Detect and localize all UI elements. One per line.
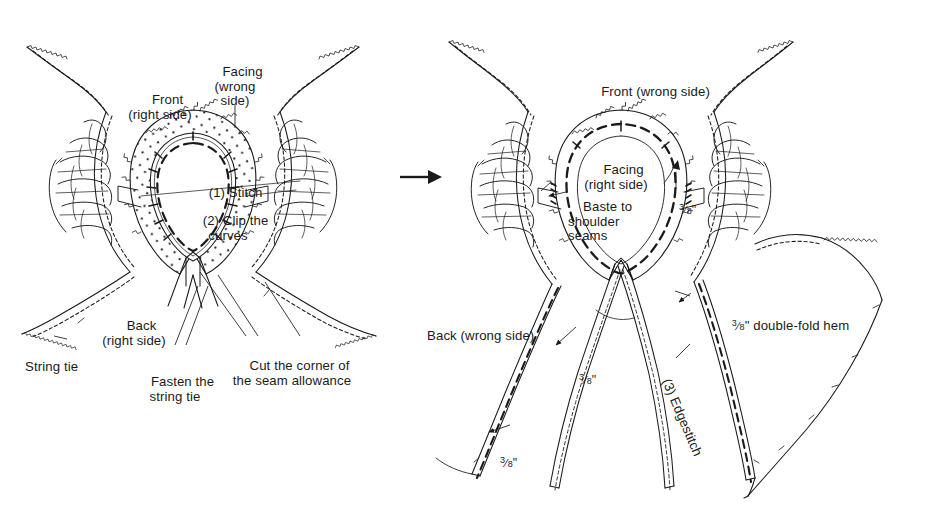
leader-double-fold-hem-2 xyxy=(675,291,690,296)
left-panel-artwork xyxy=(22,46,376,350)
right-panel-artwork xyxy=(436,41,882,499)
leader-edgestitch xyxy=(676,344,690,358)
leader-cut-corner-left xyxy=(200,272,246,336)
leader-cut-corner-far xyxy=(265,282,300,336)
transition-arrow-icon xyxy=(400,170,442,184)
leader-fasten-string-tie-2 xyxy=(186,286,208,345)
diagram-page: Front (right side) Facing (wrong side) (… xyxy=(0,0,952,524)
leader-fasten-string-tie xyxy=(175,286,198,345)
leader-string-tie xyxy=(54,336,67,339)
leader-38-tie xyxy=(556,327,576,345)
sewing-diagram-artwork xyxy=(0,0,952,524)
